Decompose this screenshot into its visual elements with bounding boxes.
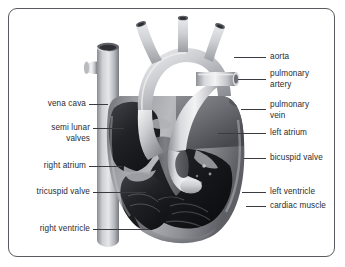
label-cardiac-muscle: cardiac muscle — [270, 201, 326, 212]
label-left-ventricle: left ventricle — [270, 187, 315, 198]
label-vena-cava: vena cava — [14, 99, 86, 110]
label-aorta: aorta — [270, 52, 289, 63]
label-left-ventricle-text: left ventricle — [270, 187, 315, 196]
label-pulmonary-vein-line2: vein — [270, 111, 285, 120]
label-vena-cava-text: vena cava — [48, 99, 86, 108]
label-tricuspid-valve: tricuspid valve — [8, 187, 90, 198]
label-right-atrium-text: right atrium — [44, 161, 86, 170]
label-tricuspid-valve-text: tricuspid valve — [37, 187, 90, 196]
label-right-atrium: right atrium — [14, 161, 86, 172]
label-pulmonary-artery: pulmonary artery — [270, 69, 309, 90]
label-semi-lunar-valves-line2: valves — [66, 134, 90, 143]
label-aorta-text: aorta — [270, 52, 289, 61]
label-cardiac-muscle-text: cardiac muscle — [270, 201, 326, 210]
label-right-ventricle: right ventricle — [8, 224, 90, 235]
label-bicuspid-valve-text: bicuspid valve — [270, 153, 323, 162]
label-semi-lunar-valves: semi lunar valves — [14, 123, 90, 144]
label-pulmonary-vein-line1: pulmonary — [270, 100, 309, 109]
label-bicuspid-valve: bicuspid valve — [270, 153, 323, 164]
label-pulmonary-artery-line1: pulmonary — [270, 69, 309, 78]
label-pulmonary-vein: pulmonary vein — [270, 100, 309, 121]
label-left-atrium-text: left atrium — [270, 128, 307, 137]
heart-diagram-figure: vena cava semi lunar valves right atrium… — [0, 0, 345, 267]
label-right-ventricle-text: right ventricle — [40, 224, 90, 233]
label-left-atrium: left atrium — [270, 128, 307, 139]
label-semi-lunar-valves-line1: semi lunar — [51, 123, 90, 132]
label-pulmonary-artery-line2: artery — [270, 80, 292, 89]
